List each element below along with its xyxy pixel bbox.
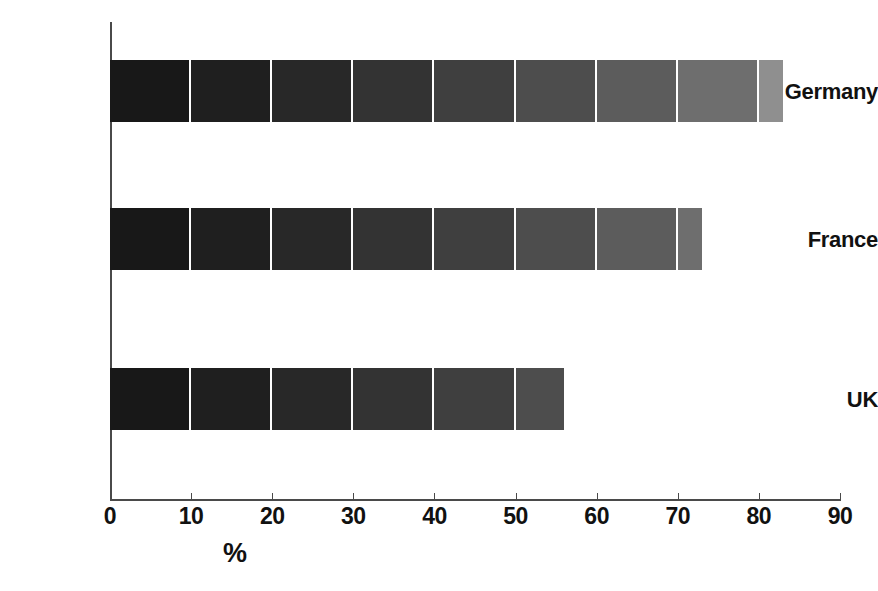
bar-segment bbox=[434, 368, 515, 430]
x-tick-10 bbox=[191, 493, 192, 500]
bar-chart: 0102030405060708090 GermanyFranceUK % bbox=[0, 0, 878, 591]
x-tick-label-30: 30 bbox=[323, 503, 383, 530]
bar-segment bbox=[597, 60, 678, 122]
x-tick-50 bbox=[516, 493, 517, 500]
bar-segment bbox=[272, 368, 353, 430]
bar-segment bbox=[353, 60, 434, 122]
bar-segment bbox=[272, 60, 353, 122]
x-tick-label-90: 90 bbox=[810, 503, 870, 530]
bar-row bbox=[110, 368, 564, 430]
x-tick-70 bbox=[678, 493, 679, 500]
category-label-france: France bbox=[774, 227, 878, 253]
x-tick-30 bbox=[353, 493, 354, 500]
bar-segment bbox=[434, 208, 515, 270]
bar-segment bbox=[516, 60, 597, 122]
bar-segment bbox=[353, 368, 434, 430]
bar-segment bbox=[353, 208, 434, 270]
x-tick-label-40: 40 bbox=[404, 503, 464, 530]
bar-segment bbox=[110, 60, 191, 122]
x-tick-80 bbox=[759, 493, 760, 500]
x-tick-label-50: 50 bbox=[486, 503, 546, 530]
bar-segment bbox=[678, 208, 702, 270]
bar-segment bbox=[110, 368, 191, 430]
bar-segment bbox=[191, 208, 272, 270]
x-axis-title: % bbox=[0, 538, 878, 569]
bar-row bbox=[110, 208, 702, 270]
x-tick-60 bbox=[597, 493, 598, 500]
x-axis-title-text: % bbox=[223, 538, 247, 569]
bar-uk bbox=[110, 368, 564, 430]
bar-france bbox=[110, 208, 702, 270]
bar-segment bbox=[678, 60, 759, 122]
bar-segment bbox=[191, 368, 272, 430]
x-tick-label-60: 60 bbox=[567, 503, 627, 530]
bar-segment bbox=[434, 60, 515, 122]
bar-segment bbox=[191, 60, 272, 122]
bar-germany bbox=[110, 60, 783, 122]
x-tick-90 bbox=[840, 493, 841, 500]
x-tick-label-70: 70 bbox=[648, 503, 708, 530]
x-axis-line bbox=[110, 499, 841, 501]
x-tick-label-0: 0 bbox=[80, 503, 140, 530]
category-label-germany: Germany bbox=[774, 79, 878, 105]
bar-segment bbox=[272, 208, 353, 270]
bar-segment bbox=[516, 208, 597, 270]
x-tick-40 bbox=[434, 493, 435, 500]
bar-segment bbox=[597, 208, 678, 270]
x-tick-label-20: 20 bbox=[242, 503, 302, 530]
x-tick-label-10: 10 bbox=[161, 503, 221, 530]
x-tick-label-80: 80 bbox=[729, 503, 789, 530]
bar-segment bbox=[516, 368, 565, 430]
bar-row bbox=[110, 60, 783, 122]
category-label-uk: UK bbox=[774, 387, 878, 413]
x-tick-20 bbox=[272, 493, 273, 500]
bar-segment bbox=[110, 208, 191, 270]
x-tick-0 bbox=[110, 493, 111, 500]
